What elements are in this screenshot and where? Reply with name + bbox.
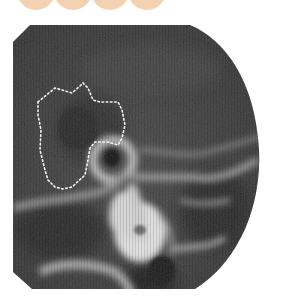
radiograph-image [0, 0, 281, 306]
film-area [0, 0, 281, 306]
radiograph-figure [0, 0, 281, 306]
